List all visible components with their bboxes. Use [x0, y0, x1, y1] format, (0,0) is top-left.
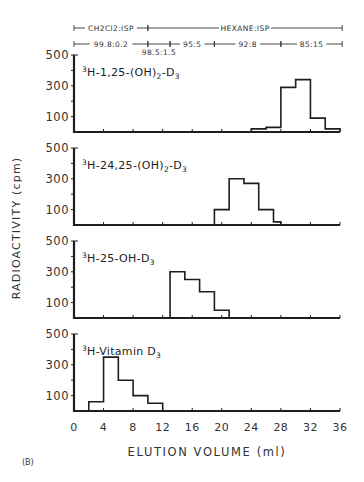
y-tick-label: 100: [46, 296, 69, 310]
histogram-series: [251, 80, 340, 132]
solvent-segment: HEXANE:ISP: [148, 24, 342, 33]
solvent-segment: 98.5:1.5: [142, 41, 176, 57]
y-tick-label: 500: [46, 141, 69, 155]
panel-3: 1003005003H-25-OH-D3: [46, 234, 340, 318]
svg-text:92:8: 92:8: [238, 40, 256, 49]
figure-panel-label: (B): [22, 458, 34, 467]
y-tick-label: 300: [46, 79, 69, 93]
panel-2: 1003005003H-24,25-(OH)2-D3: [46, 141, 340, 225]
x-tick-label: 24: [244, 421, 259, 434]
y-tick-label: 100: [46, 110, 69, 124]
y-tick-label: 500: [46, 48, 69, 62]
solvent-segment: CH2Cl2:ISP: [74, 24, 148, 33]
svg-text:CH2Cl2:ISP: CH2Cl2:ISP: [88, 24, 134, 33]
panel-1: 1003005003H-1,25-(OH)2-D3: [46, 48, 340, 132]
histogram-series: [214, 179, 281, 225]
solvent-gradient-bar: CH2Cl2:ISPHEXANE:ISP99.8:0.298.5:1.595:5…: [74, 24, 342, 57]
y-tick-label: 300: [46, 358, 69, 372]
y-tick-label: 500: [46, 327, 69, 341]
x-tick-label: 16: [185, 421, 200, 434]
x-tick-label: 0: [70, 421, 78, 434]
x-tick-label: 4: [100, 421, 108, 434]
x-axis-tick-labels: 04812162024283236: [70, 421, 347, 434]
y-tick-label: 500: [46, 234, 69, 248]
x-axis-label: ELUTION VOLUME (ml): [128, 445, 287, 459]
x-tick-label: 36: [333, 421, 348, 434]
svg-text:99.8:0.2: 99.8:0.2: [94, 40, 128, 49]
series-label: 3H-Vitamin D3: [82, 344, 161, 360]
solvent-segment: 92:8: [214, 40, 281, 49]
series-label: 3H-25-OH-D3: [82, 251, 155, 267]
histogram-series: [170, 272, 229, 318]
y-tick-label: 300: [46, 172, 69, 186]
chart-panels: 1003005003H-1,25-(OH)2-D31003005003H-24,…: [46, 48, 340, 411]
x-tick-label: 20: [214, 421, 229, 434]
series-label: 3H-24,25-(OH)2-D3: [82, 158, 187, 174]
svg-text:98.5:1.5: 98.5:1.5: [142, 48, 176, 57]
x-tick-label: 32: [303, 421, 318, 434]
series-label: 3H-1,25-(OH)2-D3: [82, 65, 180, 81]
panel-4: 1003005003H-Vitamin D3: [46, 327, 340, 411]
y-tick-label: 100: [46, 203, 69, 217]
svg-text:95:5: 95:5: [183, 40, 201, 49]
y-axis-label: RADIOACTIVITY (cpm): [10, 157, 23, 300]
solvent-segment: 99.8:0.2: [74, 40, 148, 49]
x-tick-label: 28: [273, 421, 288, 434]
svg-text:85:15: 85:15: [300, 40, 324, 49]
y-tick-label: 100: [46, 389, 69, 403]
x-tick-label: 8: [129, 421, 137, 434]
solvent-segment: 85:15: [281, 40, 342, 49]
histogram-series: [89, 357, 163, 411]
elution-profile-figure: CH2Cl2:ISPHEXANE:ISP99.8:0.298.5:1.595:5…: [0, 0, 364, 482]
solvent-segment: 95:5: [170, 40, 214, 49]
y-tick-label: 300: [46, 265, 69, 279]
x-tick-label: 12: [155, 421, 170, 434]
svg-text:HEXANE:ISP: HEXANE:ISP: [221, 24, 270, 33]
